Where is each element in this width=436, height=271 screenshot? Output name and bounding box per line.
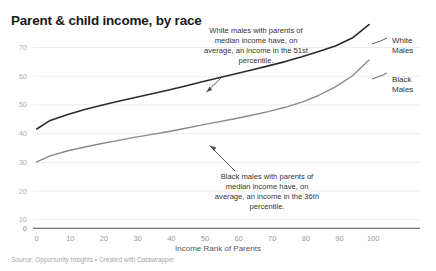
annotation-connector-black (210, 146, 236, 172)
x-axis-tick-90: 90 (328, 235, 352, 243)
series-line-black-males (37, 60, 369, 162)
x-axis-tick-80: 80 (294, 235, 318, 243)
y-axis-tick-30: 30 (11, 159, 27, 167)
y-axis-tick-40: 40 (11, 130, 27, 138)
y-axis-tick-50: 50 (11, 101, 27, 109)
x-axis-tick-10: 10 (58, 235, 82, 243)
annotation-white-males: White males with parents of median incom… (203, 26, 309, 66)
x-axis-tick-100: 100 (361, 235, 385, 243)
series-label-black-males-line1: Black (392, 75, 413, 85)
series-label-black-males: Black Males (392, 75, 413, 96)
y-axis-tick-70: 70 (11, 44, 27, 52)
x-axis-tick-50: 50 (193, 235, 217, 243)
x-axis-tick-70: 70 (260, 235, 284, 243)
source-credit: Source: Opportunity Insights • Created w… (11, 256, 174, 263)
series-label-leader-white (372, 38, 387, 44)
y-axis-tick-0: 0 (11, 225, 27, 233)
y-axis-tick-60: 60 (11, 73, 27, 81)
chart-container: Parent & child income, by race (0, 0, 436, 271)
x-axis-title: Income Rank of Parents (0, 244, 436, 253)
series-label-white-males: White Males (392, 36, 413, 57)
x-axis-tick-40: 40 (159, 235, 183, 243)
series-label-white-males-line1: White (392, 36, 413, 46)
annotation-black-males: Black males with parents of median incom… (212, 172, 322, 212)
x-axis-tick-60: 60 (227, 235, 251, 243)
x-axis-tick-30: 30 (126, 235, 150, 243)
series-label-black-males-line2: Males (392, 85, 413, 95)
x-axis-tick-20: 20 (92, 235, 116, 243)
y-axis-tick-20: 20 (11, 188, 27, 196)
y-axis-tick-10: 10 (11, 216, 27, 224)
series-label-white-males-line2: Males (392, 46, 413, 56)
x-axis-tick-0: 0 (25, 235, 49, 243)
